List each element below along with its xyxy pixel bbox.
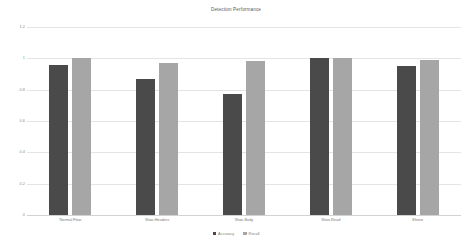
bar-group: [27, 27, 114, 215]
y-axis: 00.20.40.60.811.2: [0, 27, 25, 215]
x-tick-label: Slow-Body: [201, 217, 288, 222]
bar[interactable]: [159, 63, 178, 215]
legend-label: Accuracy: [218, 231, 234, 236]
chart-legend: AccuracyRecall: [0, 231, 472, 236]
detection-performance-chart: Detection Performance 00.20.40.60.811.2 …: [0, 0, 472, 251]
y-tick-label: 0.6: [3, 119, 25, 123]
bar[interactable]: [223, 94, 242, 215]
x-tick-label: Shrew: [374, 217, 461, 222]
x-tick-label: Slow-Headers: [114, 217, 201, 222]
bar[interactable]: [136, 79, 155, 215]
y-tick-label: 1: [3, 56, 25, 60]
bar-group: [287, 27, 374, 215]
bar[interactable]: [72, 58, 91, 215]
legend-item[interactable]: Accuracy: [213, 231, 235, 236]
bar[interactable]: [310, 58, 329, 215]
legend-swatch-icon: [243, 232, 247, 236]
bars-layer: [27, 27, 461, 215]
bar[interactable]: [420, 60, 439, 215]
legend-label: Recall: [249, 231, 260, 236]
bar-group: [374, 27, 461, 215]
y-tick-label: 0.2: [3, 182, 25, 186]
gridline: [27, 215, 461, 216]
bar[interactable]: [333, 58, 352, 215]
y-tick-label: 0.4: [3, 150, 25, 154]
x-tick-label: Normal Flow: [27, 217, 114, 222]
bar-group: [201, 27, 288, 215]
legend-swatch-icon: [213, 232, 217, 236]
x-tick-label: Slow-Read: [287, 217, 374, 222]
y-tick-label: 1.2: [3, 25, 25, 29]
y-tick-label: 0.8: [3, 88, 25, 92]
bar-group: [114, 27, 201, 215]
x-axis: Normal FlowSlow-HeadersSlow-BodySlow-Rea…: [27, 217, 461, 222]
bar[interactable]: [397, 66, 416, 215]
bar[interactable]: [246, 61, 265, 215]
legend-item[interactable]: Recall: [243, 231, 259, 236]
chart-title: Detection Performance: [0, 7, 472, 12]
y-tick-label: 0: [3, 213, 25, 217]
bar[interactable]: [49, 65, 68, 215]
